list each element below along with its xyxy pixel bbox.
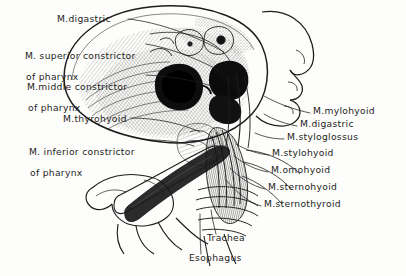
label-m-digastric-left: M.digastric [57, 14, 111, 25]
anatomical-figure: M.digastric M. superior constrictor of p… [0, 0, 406, 276]
label-m-digastric-right: M.digastric [300, 119, 354, 130]
label-m-inferior-constrictor: M. inferior constrictor of pharynx [16, 136, 135, 199]
leader-trachea [211, 210, 216, 234]
label-line-1: M. inferior constrictor [29, 146, 135, 157]
label-m-middle-constrictor: M.middle constrictor of pharynx [14, 71, 127, 134]
label-trachea: Trachea [207, 233, 245, 244]
label-m-styloglossus: M.styloglossus [287, 132, 358, 143]
label-m-sternohyoid: M.sternohyoid [268, 182, 337, 193]
leader-styloglossus [255, 133, 284, 139]
label-line-1: M. superior constrictor [25, 50, 136, 61]
label-m-sternothyroid: M.sternothyroid [264, 199, 341, 210]
leader-esophagus [200, 214, 201, 254]
label-line-1: M.middle constrictor [27, 81, 127, 92]
label-m-mylohyoid: M.mylohyoid [313, 106, 375, 117]
label-m-omohyoid: M.omohyoid [271, 165, 330, 176]
label-line-2: of pharynx [16, 168, 135, 179]
label-esophagus: Esophagus [189, 253, 242, 264]
face-profile-outline [256, 11, 314, 126]
label-line-2: of pharynx [14, 103, 127, 114]
label-m-thyrohyoid: M.thyrohyoid [63, 114, 127, 125]
label-m-stylohyoid: M.stylohyoid [272, 148, 334, 159]
leader-mylohyoid [264, 96, 310, 113]
